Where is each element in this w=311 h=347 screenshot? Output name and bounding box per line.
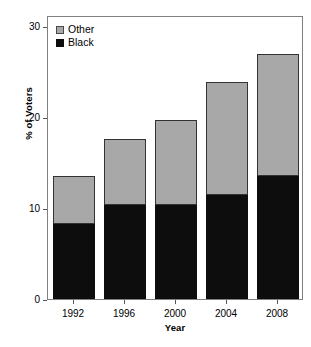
y-axis-tick-0: 0	[0, 300, 47, 301]
bar-group-1992	[53, 176, 95, 299]
x-axis-tick-mark-1996	[124, 300, 125, 304]
x-axis-tick-mark-2004	[226, 300, 227, 304]
y-axis-tick-30: 30	[0, 27, 47, 28]
legend-item-other: Other	[56, 23, 94, 36]
bar-segment-other-2004	[206, 82, 248, 195]
stacked-bar-chart-figure: 0 10 20 30 % of Voters 1992 1996 2000 20…	[0, 0, 311, 347]
y-axis-tick-label-10: 10	[29, 202, 40, 215]
legend-item-black: Black	[56, 36, 94, 49]
legend-label-other: Other	[68, 23, 94, 36]
bar-segment-black-1996	[104, 205, 146, 299]
bar-group-2000	[155, 120, 197, 299]
bar-group-2008	[257, 54, 299, 299]
legend-swatch-black-icon	[56, 39, 64, 47]
x-axis-tick-label-1992: 1992	[51, 308, 95, 319]
bar-group-2004	[206, 82, 248, 299]
x-axis-tick-label-1996: 1996	[102, 308, 146, 319]
y-axis-tick-mark-0	[43, 300, 47, 301]
x-axis-tick-mark-1992	[73, 300, 74, 304]
bar-segment-black-2008	[257, 176, 299, 299]
plot-area: Other Black	[47, 16, 303, 300]
x-axis-tick-mark-2000	[175, 300, 176, 304]
x-axis-tick-label-2004: 2004	[204, 308, 248, 319]
y-axis-tick-label-30: 30	[29, 20, 40, 33]
y-axis-tick-10: 10	[0, 209, 47, 210]
chart-legend: Other Black	[56, 23, 94, 49]
bar-segment-black-2004	[206, 195, 248, 299]
bar-segment-other-1992	[53, 176, 95, 223]
legend-label-black: Black	[68, 36, 94, 49]
x-axis-tick-mark-2008	[277, 300, 278, 304]
x-axis-tick-label-2000: 2000	[153, 308, 197, 319]
bar-segment-other-2000	[155, 120, 197, 205]
y-axis-tick-label-0: 0	[34, 293, 40, 306]
x-axis-title: Year	[47, 322, 303, 333]
bar-group-1996	[104, 139, 146, 299]
y-axis-title: % of Voters	[23, 54, 34, 174]
bar-segment-other-1996	[104, 139, 146, 205]
x-axis-tick-label-2008: 2008	[255, 308, 299, 319]
bar-segment-black-2000	[155, 205, 197, 299]
bar-segment-other-2008	[257, 54, 299, 177]
legend-swatch-other-icon	[56, 26, 64, 34]
bar-segment-black-1992	[53, 224, 95, 299]
